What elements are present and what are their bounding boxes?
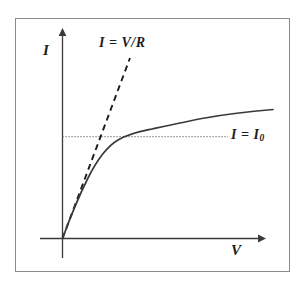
ohmic-line-label: I = V/R <box>99 36 146 50</box>
voltage-axis-label: V <box>231 243 241 258</box>
voltage-axis-arrowhead <box>258 235 266 243</box>
saturation-line-label-main: I = I <box>231 127 259 142</box>
figure-container: I V I = V/R I = I0 <box>0 0 305 286</box>
current-axis-label: I <box>43 43 49 58</box>
saturation-line-label-subscript: 0 <box>259 133 264 143</box>
saturation-line-label: I = I0 <box>231 128 265 144</box>
current-axis-arrowhead <box>59 28 67 36</box>
current-axis <box>59 28 67 258</box>
